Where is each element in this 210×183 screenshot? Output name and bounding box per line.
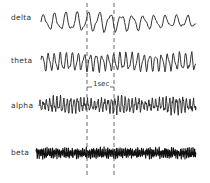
eeg-figure: delta theta alpha beta 1sec — [0, 0, 210, 183]
alpha-label: alpha — [11, 101, 33, 110]
delta-label: delta — [11, 13, 32, 22]
delta-waveform — [41, 12, 196, 33]
alpha-waveform — [39, 95, 196, 115]
eeg-waveforms — [0, 0, 210, 183]
beta-label: beta — [11, 148, 29, 157]
one-second-scale-label: 1sec — [92, 80, 110, 88]
beta-waveform — [36, 147, 196, 159]
theta-label: theta — [11, 56, 32, 65]
theta-waveform — [41, 52, 196, 73]
